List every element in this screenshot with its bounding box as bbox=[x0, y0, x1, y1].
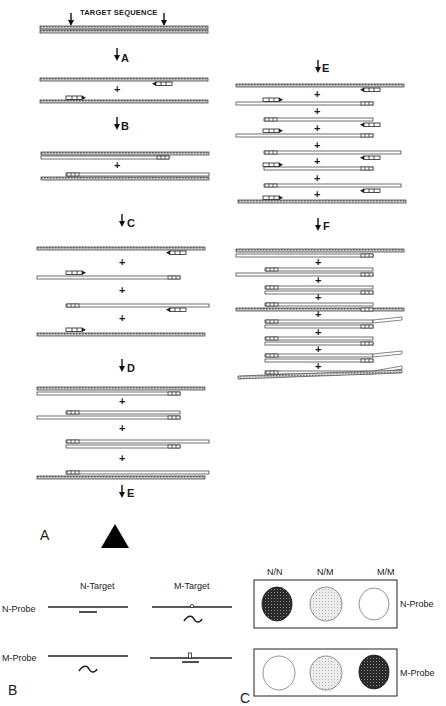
dot-mm-strong bbox=[359, 655, 389, 689]
dot-nm-medium bbox=[310, 587, 342, 621]
target-double-strand bbox=[40, 26, 208, 33]
plus-sign: + bbox=[315, 256, 321, 268]
step-c-arrow-icon bbox=[119, 214, 125, 227]
step-b-arrow-icon bbox=[114, 117, 120, 130]
plus-sign: + bbox=[119, 256, 125, 268]
mutation-site-icon bbox=[190, 604, 193, 607]
dot-nn-none bbox=[263, 656, 295, 690]
dot-nm-medium bbox=[310, 656, 342, 690]
plus-sign: + bbox=[314, 122, 320, 134]
plus-sign: + bbox=[314, 88, 320, 100]
m-probe-blot-label: M-Probe bbox=[400, 668, 435, 678]
step-e-right-arrow-icon bbox=[315, 60, 321, 73]
plus-sign: + bbox=[119, 422, 125, 434]
n-probe-row-label: N-Probe bbox=[2, 604, 36, 614]
plus-sign: + bbox=[314, 105, 320, 117]
panel-a-left-column: TARGET SEQUENCE A + B + C + + bbox=[37, 8, 209, 499]
panel-b: N-Target M-Target N-Probe M-Probe B bbox=[2, 581, 232, 698]
plus-sign: + bbox=[315, 308, 321, 320]
plus-sign: + bbox=[314, 188, 320, 200]
plus-sign: + bbox=[119, 284, 125, 296]
plus-sign: + bbox=[314, 139, 320, 151]
plus-sign: + bbox=[315, 360, 321, 372]
unbound-probe-icon bbox=[184, 616, 202, 622]
step-e-label: E bbox=[127, 487, 134, 499]
plus-sign: + bbox=[119, 312, 125, 324]
plus-sign: + bbox=[315, 343, 321, 355]
mutation-site-icon bbox=[189, 653, 192, 658]
plus-sign: + bbox=[314, 155, 320, 167]
plus-sign: + bbox=[315, 291, 321, 303]
plus-sign: + bbox=[114, 159, 120, 171]
plus-sign: + bbox=[315, 274, 321, 286]
n-probe-blot-label: N-Probe bbox=[400, 599, 434, 609]
step-a-label: A bbox=[121, 52, 129, 64]
target-end-arrow-icon bbox=[161, 13, 167, 26]
panel-a-right-column: E + + + + + + + F + bbox=[236, 60, 406, 379]
step-b-label: B bbox=[121, 120, 129, 132]
unbound-probe-icon bbox=[79, 666, 97, 672]
plus-sign: + bbox=[119, 395, 125, 407]
dot-mm-none bbox=[359, 588, 389, 620]
step-c-label: C bbox=[127, 217, 135, 229]
step-a-arrow-icon bbox=[114, 48, 120, 61]
plus-sign: + bbox=[119, 452, 125, 464]
panel-c: N/N N/M M/M N-Probe M-Probe C bbox=[240, 567, 435, 706]
step-e-arrow-icon bbox=[119, 485, 125, 498]
panel-a-label: A bbox=[40, 527, 50, 543]
target-start-arrow-icon bbox=[68, 13, 74, 26]
triangle-icon bbox=[101, 524, 129, 548]
step-d-label: D bbox=[127, 362, 135, 374]
step-f-label: F bbox=[323, 220, 330, 232]
target-sequence-title: TARGET SEQUENCE bbox=[80, 8, 157, 17]
m-target-header: M-Target bbox=[174, 581, 210, 591]
plus-sign: + bbox=[114, 83, 120, 95]
panel-b-label: B bbox=[8, 682, 17, 698]
plus-sign: + bbox=[314, 172, 320, 184]
step-f-arrow-icon bbox=[315, 218, 321, 231]
m-probe-row-label: M-Probe bbox=[2, 653, 37, 663]
step-d-arrow-icon bbox=[119, 359, 125, 372]
nm-column-header: N/M bbox=[317, 567, 334, 577]
panel-c-label: C bbox=[240, 690, 250, 706]
n-target-header: N-Target bbox=[80, 581, 115, 591]
plus-sign: + bbox=[315, 326, 321, 338]
nn-column-header: N/N bbox=[267, 567, 283, 577]
pcr-allele-specific-probe-figure: TARGET SEQUENCE A + B + C + + bbox=[0, 0, 446, 706]
mm-column-header: M/M bbox=[377, 567, 395, 577]
step-e-right-label: E bbox=[322, 62, 329, 74]
dot-nn-strong bbox=[262, 587, 292, 621]
